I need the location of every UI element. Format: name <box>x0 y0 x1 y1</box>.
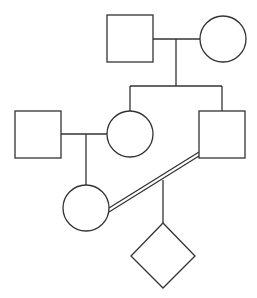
pedigree-chart <box>0 0 257 298</box>
gen3-female-circle <box>63 185 109 231</box>
consanguineous-line-b <box>109 156 199 212</box>
gen2-spouse-male-square <box>15 111 61 158</box>
gen2-son-square <box>199 111 245 158</box>
gen1-male-square <box>107 15 153 62</box>
consanguineous-line-a <box>109 152 199 208</box>
gen2-daughter-circle <box>107 111 153 157</box>
gen4-child-diamond <box>131 223 195 288</box>
gen1-female-circle <box>200 16 246 62</box>
